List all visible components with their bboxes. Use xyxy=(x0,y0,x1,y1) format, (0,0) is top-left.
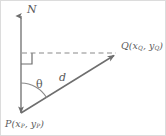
diagram-canvas xyxy=(0,0,166,136)
right-angle-marker xyxy=(21,53,32,64)
point-p-close-paren: ) xyxy=(40,118,44,129)
distance-line-d xyxy=(21,56,114,114)
bearing-diagram-figure: N θ d Q(xQ, yQ) P(xP, yP) xyxy=(0,0,166,136)
point-q-label: Q(xQ, yQ) xyxy=(121,41,163,52)
point-p-x-var: x xyxy=(15,118,20,129)
figure-border xyxy=(1,1,166,136)
north-label: N xyxy=(27,4,37,15)
point-q-close-paren: ) xyxy=(159,40,163,51)
point-q-name: Q xyxy=(121,40,129,51)
angle-theta-label: θ xyxy=(36,79,43,90)
distance-d-label: d xyxy=(59,72,66,83)
point-q-y-var: y xyxy=(149,40,154,51)
point-p-label: P(xP, yP) xyxy=(5,119,44,130)
